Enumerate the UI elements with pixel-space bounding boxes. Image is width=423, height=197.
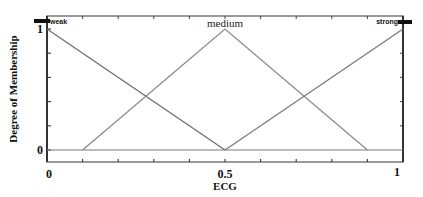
y-tick-label: 0 bbox=[37, 143, 43, 157]
mf-weak-line bbox=[47, 29, 225, 150]
x-tick-label: 0 bbox=[46, 167, 52, 181]
plot-frame bbox=[47, 16, 403, 162]
mf-label-strong: strong bbox=[376, 18, 398, 26]
mf-label-medium: medium bbox=[207, 17, 243, 29]
mf-medium-line bbox=[83, 29, 368, 150]
mf-strong-line bbox=[225, 29, 403, 150]
strong-label-overlap-mark bbox=[398, 20, 412, 24]
membership-function-chart: weak medium strong 1 0 0 0.5 1 ECG Degre… bbox=[0, 0, 423, 197]
x-tick-label: 1 bbox=[394, 165, 400, 179]
y-tick-label: 1 bbox=[37, 22, 43, 36]
y-axis-title: Degree of Membership bbox=[7, 35, 19, 142]
mf-label-weak: weak bbox=[49, 18, 67, 25]
x-tick-label: 0.5 bbox=[218, 167, 233, 181]
x-axis-title: ECG bbox=[213, 180, 237, 192]
